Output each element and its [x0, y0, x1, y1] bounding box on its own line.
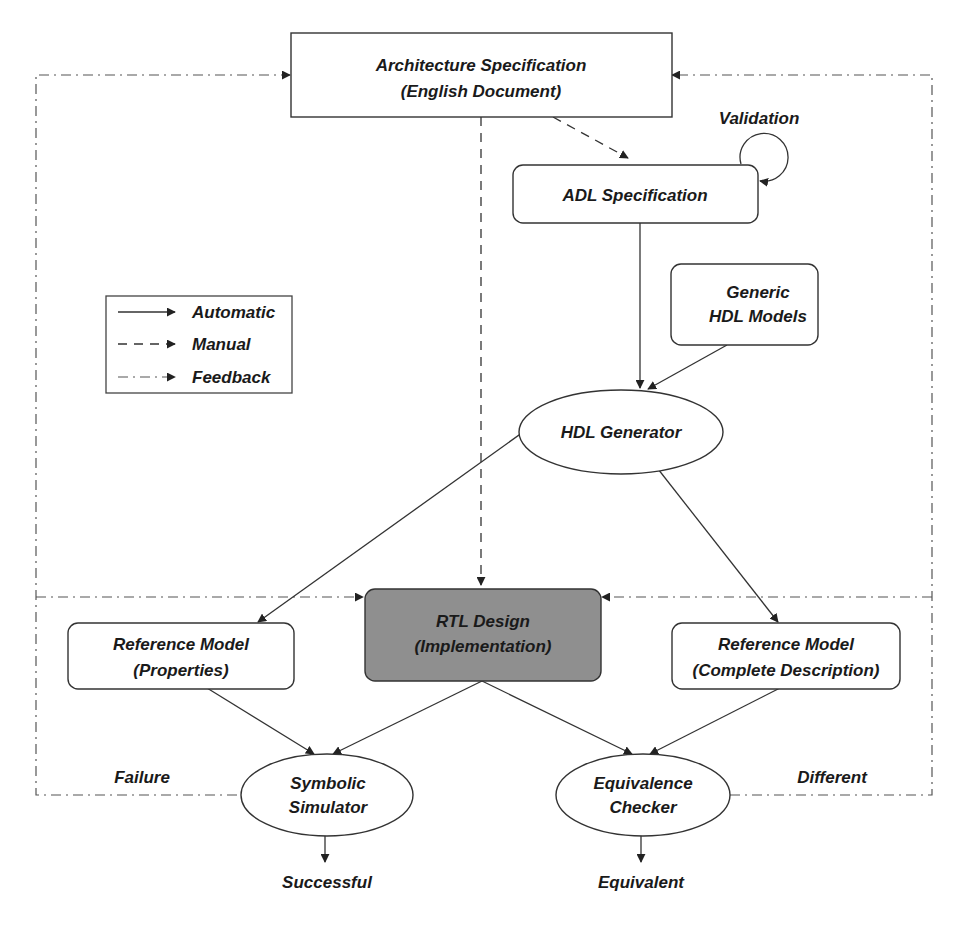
node-equivalence-checker[interactable]: Equivalence Checker: [556, 754, 730, 836]
node-hdl-generator[interactable]: HDL Generator: [519, 390, 723, 474]
node-reference-model-complete[interactable]: Reference Model (Complete Description): [672, 623, 900, 689]
hdl-generator-label: HDL Generator: [561, 423, 683, 442]
auto-arrow-rtl-to-equiv: [482, 681, 632, 754]
node-adl-specification[interactable]: ADL Specification: [513, 165, 758, 223]
adl-spec-label: ADL Specification: [561, 186, 707, 205]
node-symbolic-simulator[interactable]: Symbolic Simulator: [241, 754, 413, 836]
rtl-design-subtitle: (Implementation): [415, 637, 552, 656]
legend: Automatic Manual Feedback: [106, 296, 292, 393]
arch-spec-subtitle: (English Document): [401, 82, 562, 101]
node-reference-model-properties[interactable]: Reference Model (Properties): [68, 623, 294, 689]
node-architecture-specification[interactable]: Architecture Specification (English Docu…: [291, 33, 672, 117]
legend-automatic-label: Automatic: [191, 303, 276, 322]
equiv-line2: Checker: [609, 798, 677, 817]
generic-hdl-line2: HDL Models: [709, 307, 807, 326]
arch-spec-title: Architecture Specification: [375, 56, 587, 75]
auto-arrow-ref-complete-to-equiv: [650, 688, 780, 754]
ref-complete-title: Reference Model: [718, 635, 855, 654]
successful-label: Successful: [282, 873, 373, 892]
flow-diagram: Architecture Specification (English Docu…: [0, 0, 966, 927]
rtl-design-title: RTL Design: [436, 612, 530, 631]
node-generic-hdl-models[interactable]: Generic HDL Models: [671, 264, 818, 345]
simulator-line1: Symbolic: [290, 774, 366, 793]
generic-hdl-line1: Generic: [726, 283, 790, 302]
ref-props-title: Reference Model: [113, 635, 250, 654]
validation-label: Validation: [719, 109, 800, 128]
failure-label: Failure: [114, 768, 170, 787]
ref-complete-subtitle: (Complete Description): [692, 661, 879, 680]
ref-props-subtitle: (Properties): [133, 661, 229, 680]
simulator-line2: Simulator: [289, 798, 369, 817]
equivalent-label: Equivalent: [598, 873, 685, 892]
equiv-line1: Equivalence: [593, 774, 692, 793]
auto-arrow-generator-to-ref-complete: [640, 446, 778, 622]
auto-arrow-rtl-to-simulator: [333, 681, 482, 754]
legend-feedback-label: Feedback: [192, 368, 272, 387]
node-rtl-design[interactable]: RTL Design (Implementation): [365, 589, 601, 681]
manual-arrow-arch-to-adl: [553, 117, 628, 158]
auto-arrow-generic-to-hdl-generator: [648, 345, 727, 389]
different-label: Different: [797, 768, 868, 787]
auto-arrow-ref-props-to-simulator: [207, 688, 314, 754]
legend-manual-label: Manual: [192, 335, 252, 354]
